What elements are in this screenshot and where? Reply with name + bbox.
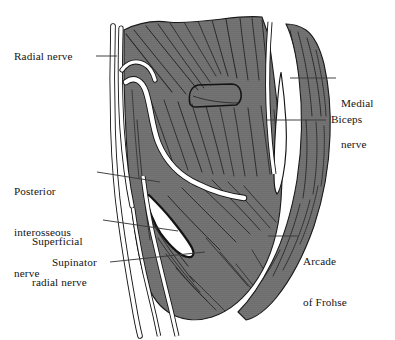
anatomy-figure: Radial nerve Posterior interosseous nerv… <box>0 0 395 340</box>
label-superficial-radial-nerve-line2: radial nerve <box>32 276 87 290</box>
label-arcade-of-frohse-line1: Arcade <box>303 255 347 269</box>
label-arcade-of-frohse-line2: of Frohse <box>303 296 347 310</box>
label-posterior-interosseous-nerve-line1: Posterior <box>14 185 71 199</box>
label-radial-nerve: Radial nerve <box>14 50 73 64</box>
label-supinator: Supinator <box>52 256 97 270</box>
label-medial-nerve-line1: Medial <box>341 97 374 111</box>
label-arcade-of-frohse: Arcade of Frohse <box>303 228 347 337</box>
label-biceps: Biceps <box>331 113 362 127</box>
label-medial-nerve-line2: nerve <box>341 138 374 152</box>
supinator-muscle <box>124 17 282 320</box>
label-superficial-radial-nerve-line1: Superficial <box>32 235 87 249</box>
